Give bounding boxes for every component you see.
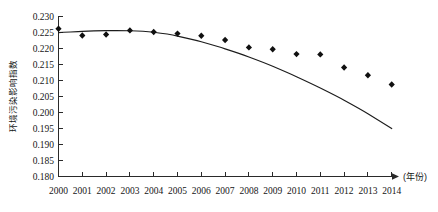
x-tick-label: 2010 — [287, 186, 306, 196]
x-tick-label: 2014 — [382, 186, 401, 196]
x-tick-label: 2012 — [335, 186, 354, 196]
y-tick-label: 0.185 — [33, 156, 55, 166]
x-tick-label: 2011 — [311, 186, 330, 196]
x-tick-label: 2004 — [144, 186, 163, 196]
x-tick-label: 2006 — [192, 186, 211, 196]
chart-canvas: 0.230 0.225 0.220 0.215 0.210 0.205 0.20… — [0, 0, 438, 212]
y-tick-label: 0.215 — [33, 60, 55, 70]
x-tick-label: 2002 — [97, 186, 116, 196]
y-tick-label: 0.220 — [33, 44, 55, 54]
y-tick-labels: 0.230 0.225 0.220 0.215 0.210 0.205 0.20… — [33, 12, 55, 182]
x-tick-label: 2001 — [73, 186, 92, 196]
chart-figure: 0.230 0.225 0.220 0.215 0.210 0.205 0.20… — [0, 0, 438, 212]
y-tick-label: 0.210 — [33, 76, 55, 86]
y-tick-label: 0.180 — [33, 172, 55, 182]
x-tick-label: 2000 — [49, 186, 68, 196]
y-axis-title: 环境污染影响指数 — [8, 60, 18, 132]
x-tick-labels: 2000 2001 2002 2003 2004 2005 2006 2007 … — [49, 186, 401, 196]
x-tick-label: 2008 — [239, 186, 258, 196]
y-tick-label: 0.205 — [33, 92, 55, 102]
x-tick-label: 2005 — [168, 186, 187, 196]
y-tick-label: 0.230 — [33, 12, 55, 22]
x-tick-label: 2009 — [263, 186, 282, 196]
y-tick-label: 0.190 — [33, 140, 55, 150]
y-tick-label: 0.225 — [33, 28, 55, 38]
x-axis-title: (年份) — [403, 171, 427, 182]
x-tick-label: 2003 — [120, 186, 139, 196]
y-tick-label: 0.195 — [33, 124, 55, 134]
x-tick-label: 2007 — [216, 186, 235, 196]
y-tick-label: 0.200 — [33, 108, 55, 118]
x-tick-label: 2013 — [358, 186, 377, 196]
